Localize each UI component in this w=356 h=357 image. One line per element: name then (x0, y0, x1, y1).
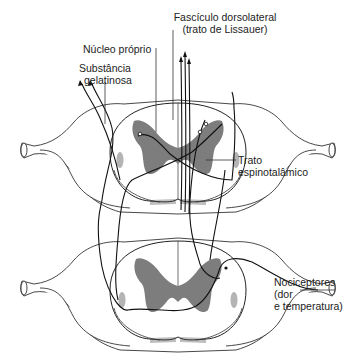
label-dor: (dor (274, 288, 293, 300)
label-trato: Trato (238, 154, 262, 166)
spinothalamic-diagram: Fascículo dorsolateral (trato de Lissaue… (0, 0, 356, 357)
upper-spinal-cord-section (21, 100, 336, 214)
label-fasciculo-dorsolateral: Fascículo dorsolateral (174, 11, 277, 23)
label-trato-lissauer: (trato de Lissauer) (182, 23, 267, 35)
label-gelatinosa: gelatinosa (84, 74, 132, 86)
label-temperatura: e temperatura) (274, 300, 343, 312)
label-nucleo-proprio: Núcleo próprio (83, 43, 151, 55)
label-nociceptores: Nociceptores (274, 276, 335, 288)
label-substancia: Substância (79, 62, 131, 74)
label-espinotalamico: espinotalâmico (238, 166, 308, 178)
